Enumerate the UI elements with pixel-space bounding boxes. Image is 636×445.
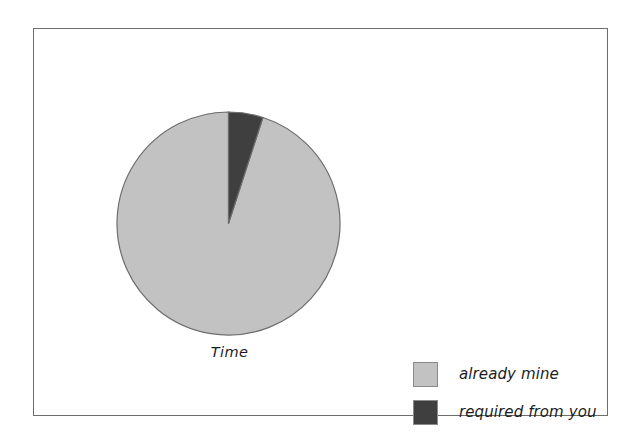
legend-item-required-from-you[interactable]: required from you [413,393,597,431]
pie-caption: Time [142,344,317,360]
screenshot-root: Time already mine required from you [0,0,636,445]
legend-label-already-mine: already mine [459,365,559,383]
pie-chart-svg [116,111,341,336]
legend: already mine required from you [413,355,597,431]
legend-swatch-already-mine [413,362,438,387]
pie-chart [116,111,341,336]
legend-label-required-from-you: required from you [459,403,597,421]
legend-item-already-mine[interactable]: already mine [413,355,597,393]
chart-frame: Time already mine required from you [33,28,608,416]
legend-swatch-required-from-you [413,400,438,425]
